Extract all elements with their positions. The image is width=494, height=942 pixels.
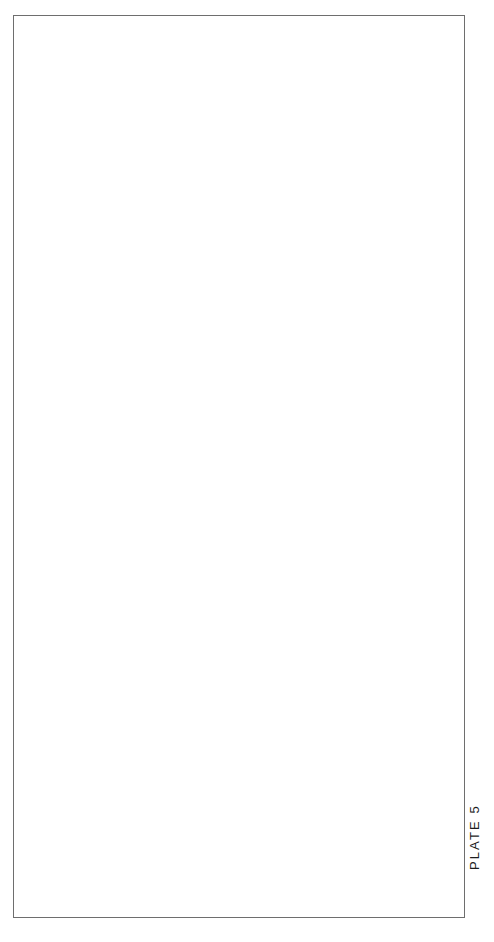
plate-caption: PLATE 5 xyxy=(462,774,488,870)
plate-frame-border xyxy=(13,15,465,918)
plate-page: ℳ PLATE 5 xyxy=(0,0,494,942)
